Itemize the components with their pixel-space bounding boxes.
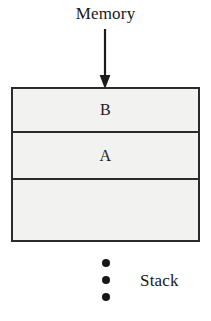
ellipsis-dot [102, 293, 110, 301]
memory-box: B A [11, 87, 200, 242]
memory-cell-a: A [13, 133, 198, 180]
memory-stack-diagram: Memory B A Stack [0, 0, 211, 321]
memory-cell-b: B [13, 89, 198, 133]
memory-cell-free [13, 180, 198, 240]
memory-cell-a-label: A [100, 148, 112, 164]
down-arrow-icon [97, 29, 113, 89]
stack-label: Stack [140, 271, 179, 291]
memory-cell-b-label: B [100, 102, 111, 118]
memory-label: Memory [0, 4, 211, 24]
vertical-ellipsis-icon [99, 259, 112, 301]
ellipsis-dot [102, 259, 110, 267]
ellipsis-dot [102, 276, 110, 284]
